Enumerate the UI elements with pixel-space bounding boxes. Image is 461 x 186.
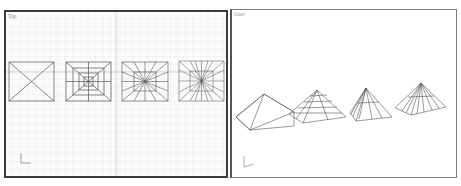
pyramid-3 xyxy=(122,62,168,101)
viewport-label-top[interactable]: Top xyxy=(8,13,16,19)
viewport-top[interactable]: Top xyxy=(4,10,228,178)
xyz-axis-icon xyxy=(244,156,254,167)
pyramid-d xyxy=(395,83,446,115)
viewport-label-user[interactable]: User xyxy=(234,11,245,17)
pyramid-a xyxy=(236,94,294,130)
pyramid-c xyxy=(350,88,392,121)
viewport-user[interactable]: User xyxy=(230,9,457,178)
top-view-canvas xyxy=(6,12,226,176)
pyramid-4 xyxy=(179,61,224,101)
pyramid-b xyxy=(289,90,346,123)
user-view-canvas xyxy=(232,10,457,177)
pyramid-2 xyxy=(66,62,111,101)
